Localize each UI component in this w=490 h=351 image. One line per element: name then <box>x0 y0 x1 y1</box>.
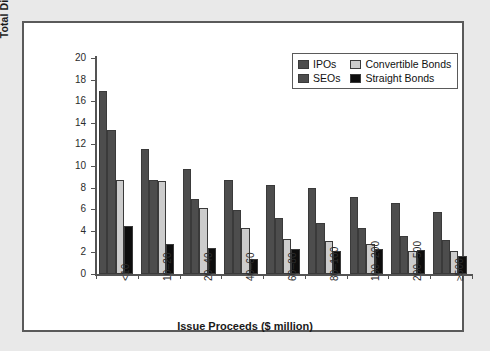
bar <box>308 188 316 274</box>
x-tick-mark <box>180 274 181 279</box>
y-axis-title: Total Direct Costs (%) <box>0 0 10 73</box>
bar <box>350 197 358 274</box>
legend-item: IPOs <box>298 58 340 70</box>
legend-swatch-icon <box>298 74 309 83</box>
bar <box>99 91 107 274</box>
bar <box>116 180 124 275</box>
x-tick-mark <box>221 274 222 279</box>
bar <box>233 210 241 274</box>
legend-label: SEOs <box>313 72 340 84</box>
x-tick-label: 10–20 <box>162 252 173 281</box>
bar <box>391 203 399 274</box>
bar <box>358 228 366 274</box>
legend-label: Convertible Bonds <box>365 58 451 70</box>
x-tick-label: 100–200 <box>370 241 381 281</box>
x-axis-title: Issue Proceeds ($ million) <box>24 320 466 332</box>
bar <box>107 130 115 274</box>
x-tick-mark <box>138 274 139 279</box>
y-tick-label: 0 <box>80 267 86 280</box>
bar <box>266 185 274 274</box>
y-tick-label: 4 <box>80 224 86 237</box>
x-tick-label: 40–60 <box>245 252 256 281</box>
x-tick-mark <box>263 274 264 279</box>
bar <box>141 149 149 274</box>
legend-label: Straight Bonds <box>365 72 434 84</box>
bar <box>442 240 450 274</box>
x-tick-label: ≥500 <box>454 258 465 281</box>
x-tick-label: <10 <box>120 263 131 281</box>
bar-group <box>99 58 133 274</box>
y-tick-label: 18 <box>75 73 86 86</box>
legend-item: Straight Bonds <box>350 72 451 84</box>
x-tick-mark <box>430 274 431 279</box>
x-tick-label: 80–100 <box>329 246 340 281</box>
y-tick-label: 2 <box>80 245 86 258</box>
bar <box>400 236 408 274</box>
legend-swatch-icon <box>350 60 361 69</box>
x-tick-mark <box>347 274 348 279</box>
legend-item: SEOs <box>298 72 340 84</box>
legend-label: IPOs <box>313 58 336 70</box>
bar-group <box>141 58 175 274</box>
x-tick-mark <box>96 274 97 279</box>
bar-group <box>224 58 258 274</box>
y-tick-label: 14 <box>75 116 86 129</box>
bar <box>224 180 232 275</box>
legend-item: Convertible Bonds <box>350 58 451 70</box>
bar-group <box>308 58 342 274</box>
y-tick-label: 20 <box>75 51 86 64</box>
bar <box>149 180 157 274</box>
y-tick-label: 6 <box>80 202 86 215</box>
chart-screenshot: 02468101214161820 Total Direct Costs (%)… <box>0 0 490 351</box>
x-tick-mark <box>388 274 389 279</box>
bar <box>191 199 199 274</box>
bar-group <box>183 58 217 274</box>
bar <box>433 212 441 274</box>
x-tick-label: 60–80 <box>287 252 298 281</box>
chart-panel: 02468101214161820 Total Direct Costs (%)… <box>22 21 464 332</box>
bar-group <box>266 58 300 274</box>
bar <box>183 169 191 274</box>
legend-swatch-icon <box>350 74 361 83</box>
y-tick-label: 16 <box>75 94 86 107</box>
bar-group <box>433 58 467 274</box>
bar <box>316 223 324 274</box>
legend-swatch-icon <box>298 60 309 69</box>
x-tick-mark <box>305 274 306 279</box>
x-tick-mark <box>472 274 473 279</box>
chart-legend: IPOsConvertible BondsSEOsStraight Bonds <box>292 53 458 89</box>
y-tick-label: 12 <box>75 137 86 150</box>
bar <box>275 218 283 274</box>
y-tick-label: 8 <box>80 181 86 194</box>
x-tick-label: 200–500 <box>412 241 423 281</box>
x-tick-label: 20–40 <box>203 252 214 281</box>
y-tick-label: 10 <box>75 159 86 172</box>
